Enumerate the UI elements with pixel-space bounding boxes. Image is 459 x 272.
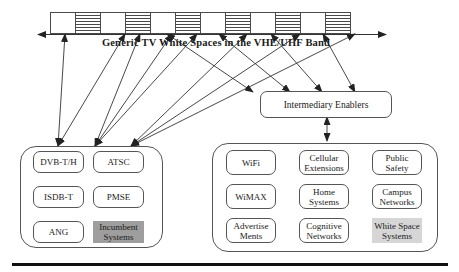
channel-2-occupied [75,12,101,34]
whitespace-node-wimax: WiMAX [226,184,276,209]
incumbent-node-label: ISDB-T [44,192,73,202]
channel-5-white [150,12,176,34]
whitespace-node-campus-networks: Campus Networks [372,184,422,209]
whitespace-node-home-systems: Home Systems [299,184,349,209]
incumbent-band-arrow-8 [131,34,355,146]
incumbent-band-arrow-7 [131,34,300,146]
incumbent-systems-group: DVB-T/HATSCISDB-TPMSEANGIncumbent System… [20,146,163,248]
incumbent-node-incumbent-systems: Incumbent Systems [93,221,144,243]
channel-11-white [300,12,326,34]
whitespace-node-label: Cellular Extensions [301,153,347,173]
intermediary-enablers-label: Intermediary Enablers [284,100,369,110]
channel-7-white [200,12,226,34]
incumbent-node-label: DVB-T/H [40,157,77,167]
whitespace-node-label: WiMAX [235,192,267,202]
incumbent-node-label: Incumbent Systems [94,222,143,242]
whitespace-node-cognitive-networks: Cognitive Networks [299,218,349,243]
band-title: Generic TV White Spaces in the VHE/UHF B… [98,36,334,49]
whitespace-node-label: Home Systems [301,187,347,207]
whitespace-node-advertise-ments: Advertise Ments [226,218,276,243]
tv-white-space-diagram: Generic TV White Spaces in the VHE/UHF B… [0,0,459,272]
incumbent-node-ang: ANG [33,221,84,243]
whitespace-node-white-space-systems: White Space Systems [372,218,422,243]
incumbent-node-dvb-t-h: DVB-T/H [33,151,84,173]
incumbent-node-label: ANG [49,227,69,237]
whitespace-node-label: Campus Networks [374,187,420,207]
channel-10-occupied [275,12,301,34]
channel-9-white [250,12,276,34]
bottom-rule [12,263,448,266]
whitespace-node-label: Advertise Ments [228,221,274,241]
spectrum-band [50,12,350,34]
whitespace-node-label: Cognitive Networks [301,221,347,241]
incumbent-node-pmse: PMSE [93,186,144,208]
incumbent-band-arrow-6 [131,34,247,146]
channel-8-occupied [225,12,251,34]
incumbent-band-arrow-5 [95,34,197,146]
whitespace-node-cellular-extensions: Cellular Extensions [299,150,349,175]
incumbent-band-arrow-1 [58,34,65,146]
white-space-systems-group: WiFiCellular ExtensionsPublic SafetyWiMA… [212,143,438,252]
incumbent-node-isdb-t: ISDB-T [33,186,84,208]
channel-6-occupied [175,12,201,34]
incumbent-band-arrow-2 [58,34,125,146]
whitespace-node-public-safety: Public Safety [372,150,422,175]
intermediary-enablers-box: Intermediary Enablers [260,91,392,118]
channel-12-occupied [325,12,351,34]
whitespace-node-label: White Space Systems [373,221,421,241]
incumbent-node-label: PMSE [107,192,131,202]
incumbent-node-atsc: ATSC [93,151,144,173]
channel-4-occupied [125,12,151,34]
whitespace-node-wifi: WiFi [226,150,276,175]
incumbent-node-label: ATSC [107,157,129,167]
channel-3-white [100,12,126,34]
whitespace-node-label: Public Safety [374,153,420,173]
whitespace-node-label: WiFi [242,158,260,168]
channel-1-white [50,12,76,34]
